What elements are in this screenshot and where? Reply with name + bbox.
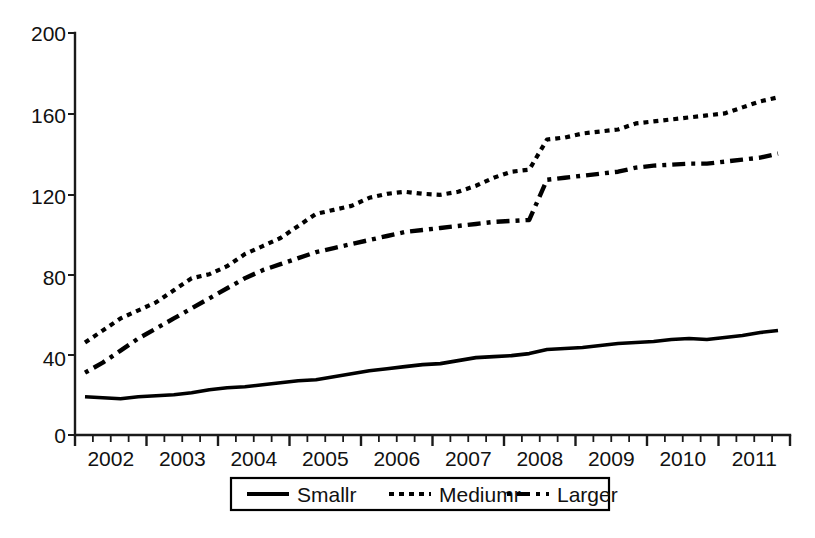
data-series-group <box>85 97 778 399</box>
x-tick-label-2008: 2008 <box>516 447 563 470</box>
line-chart-svg: 200 160 120 80 40 0 20022003200420052006… <box>0 0 815 538</box>
x-tick-label-2003: 2003 <box>159 447 206 470</box>
y-tick-label-120: 120 <box>31 185 66 208</box>
x-tick-label-2007: 2007 <box>445 447 492 470</box>
y-tick-label-80: 80 <box>43 266 66 289</box>
y-tick-label-40: 40 <box>43 347 66 370</box>
series-line-smallr <box>85 330 778 398</box>
chart-container: 200 160 120 80 40 0 20022003200420052006… <box>0 0 815 538</box>
x-tick-label-2006: 2006 <box>373 447 420 470</box>
series-line-mediumr <box>85 97 778 342</box>
y-tick-label-200: 200 <box>31 22 66 45</box>
legend-label-smallr: Smallr <box>297 483 357 506</box>
x-tick-label-2002: 2002 <box>87 447 134 470</box>
x-tick-label-2005: 2005 <box>302 447 349 470</box>
y-tick-label-0: 0 <box>54 424 66 447</box>
x-axis-tick-labels: 2002200320042005200620072008200920102011 <box>87 447 776 470</box>
y-axis-tick-labels: 200 160 120 80 40 0 <box>31 22 66 447</box>
y-tick-label-160: 160 <box>31 104 66 127</box>
chart-legend: Smallr Mediumr Larger <box>231 478 618 510</box>
x-tick-label-2004: 2004 <box>230 447 277 470</box>
x-tick-label-2009: 2009 <box>588 447 635 470</box>
x-tick-label-2011: 2011 <box>732 447 777 470</box>
x-axis-tick-marks <box>75 435 790 446</box>
axis-spines <box>75 33 790 435</box>
x-tick-label-2010: 2010 <box>659 447 706 470</box>
legend-label-larger: Larger <box>557 483 618 506</box>
